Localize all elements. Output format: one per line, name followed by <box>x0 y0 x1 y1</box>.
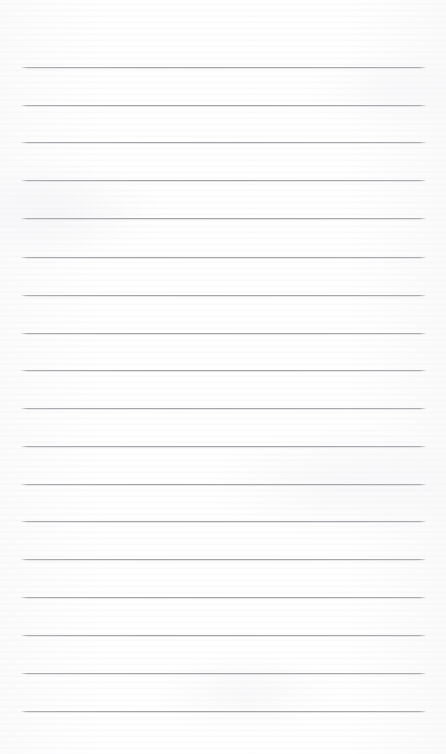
rule-line-17 <box>21 673 426 674</box>
rule-line-1 <box>21 67 426 68</box>
rule-line-8 <box>21 333 426 334</box>
rule-line-4 <box>21 180 426 181</box>
rule-line-14 <box>21 559 426 560</box>
rule-line-11 <box>21 446 426 447</box>
rule-line-2 <box>21 105 426 106</box>
rule-line-12 <box>21 484 426 485</box>
rule-line-16 <box>21 635 426 636</box>
rule-line-9 <box>21 370 426 371</box>
rule-line-3 <box>21 142 426 143</box>
rule-line-5 <box>21 218 426 219</box>
rule-line-10 <box>21 408 426 409</box>
rule-line-15 <box>21 597 426 598</box>
rule-line-13 <box>21 521 426 522</box>
rule-line-6 <box>21 257 426 258</box>
rule-line-7 <box>21 295 426 296</box>
lined-paper-page <box>0 0 446 754</box>
rule-line-18 <box>21 711 426 712</box>
